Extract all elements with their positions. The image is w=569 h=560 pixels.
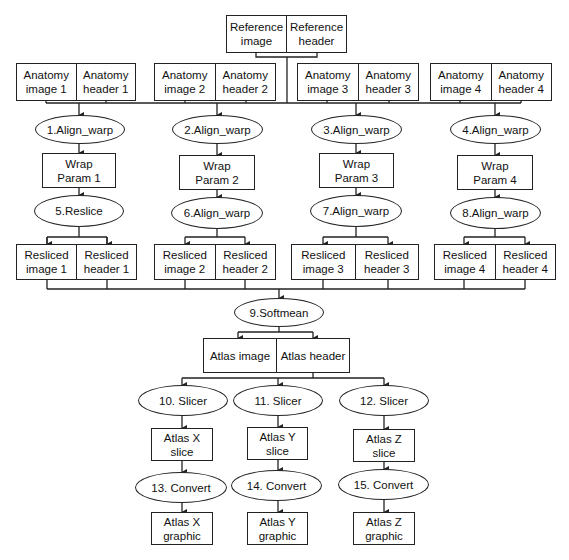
align-warp-4: 4.Align_warp <box>450 115 541 144</box>
align-warp-1: 1.Align_warp <box>35 115 125 144</box>
resliced-header: Resliced header 4 <box>495 245 556 279</box>
anatomy-image: Anatomy image 3 <box>298 64 358 100</box>
align-warp-3: 3.Align_warp <box>311 115 402 144</box>
resliced-box-3: Resliced image 3 Resliced header 3 <box>291 244 419 280</box>
resliced-image: Resliced image 4 <box>435 245 495 279</box>
slicer-12: 12. Slicer <box>339 385 429 416</box>
atlas-header: Atlas header <box>276 339 349 372</box>
anatomy-image: Anatomy image 4 <box>431 64 491 100</box>
reference-box: Reference image Reference header <box>226 15 347 53</box>
anatomy-header: Anatomy header 1 <box>76 64 136 100</box>
atlas-z-graphic: Atlas Z graphic <box>353 512 415 545</box>
resliced-header: Resliced header 2 <box>215 245 276 279</box>
reference-header: Reference header <box>286 16 346 52</box>
atlas-x-graphic: Atlas X graphic <box>151 512 213 545</box>
atlas-z-slice: Atlas Z slice <box>353 429 415 462</box>
convert-14: 14. Convert <box>231 470 322 501</box>
convert-13: 13. Convert <box>135 472 227 503</box>
wrap-param-1: Wrap Param 1 <box>42 153 116 188</box>
atlas-image: Atlas image <box>204 339 276 372</box>
wrap-param-4: Wrap Param 4 <box>457 155 533 190</box>
softmean-9: 9.Softmean <box>234 298 324 327</box>
resliced-image: Resliced image 1 <box>17 245 76 279</box>
reslice-5: 5.Reslice <box>34 195 124 227</box>
align-warp-6: 6.Align_warp <box>171 197 263 229</box>
anatomy-header: Anatomy header 3 <box>358 64 419 100</box>
align-warp-7: 7.Align_warp <box>310 195 402 227</box>
slicer-11: 11. Slicer <box>233 385 323 416</box>
anatomy-box-1: Anatomy image 1 Anatomy header 1 <box>16 63 136 101</box>
resliced-box-4: Resliced image 4 Resliced header 4 <box>434 244 556 280</box>
wrap-param-2: Wrap Param 2 <box>179 155 255 190</box>
wrap-param-3: Wrap Param 3 <box>319 153 394 188</box>
anatomy-image: Anatomy image 1 <box>17 64 76 100</box>
atlas-box: Atlas image Atlas header <box>203 338 350 373</box>
resliced-header: Resliced header 3 <box>355 245 419 279</box>
anatomy-box-3: Anatomy image 3 Anatomy header 3 <box>297 63 419 101</box>
align-warp-2: 2.Align_warp <box>172 115 263 144</box>
resliced-image: Resliced image 3 <box>292 245 355 279</box>
anatomy-box-4: Anatomy image 4 Anatomy header 4 <box>430 63 552 101</box>
slicer-10: 10. Slicer <box>138 385 228 416</box>
reference-image: Reference image <box>227 16 286 52</box>
resliced-box-2: Resliced image 2 Resliced header 2 <box>154 244 276 280</box>
anatomy-image: Anatomy image 2 <box>155 64 215 100</box>
atlas-y-slice: Atlas Y slice <box>247 427 308 460</box>
anatomy-header: Anatomy header 4 <box>491 64 552 100</box>
align-warp-8: 8.Align_warp <box>450 197 541 229</box>
convert-15: 15. Convert <box>338 469 429 500</box>
resliced-box-1: Resliced image 1 Resliced header 1 <box>16 244 137 280</box>
anatomy-header: Anatomy header 2 <box>215 64 276 100</box>
atlas-x-slice: Atlas X slice <box>151 428 213 461</box>
resliced-header: Resliced header 1 <box>76 245 136 279</box>
resliced-image: Resliced image 2 <box>155 245 215 279</box>
atlas-y-graphic: Atlas Y graphic <box>247 512 308 545</box>
anatomy-box-2: Anatomy image 2 Anatomy header 2 <box>154 63 276 101</box>
